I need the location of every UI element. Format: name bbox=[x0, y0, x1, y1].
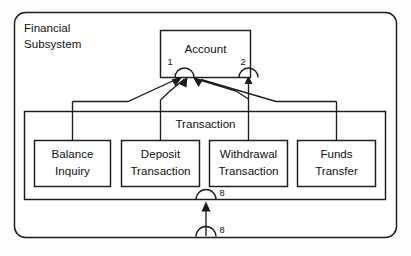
account-port-1-label: 1 bbox=[167, 57, 172, 67]
operation-deposit-transaction-line1: Deposit bbox=[141, 147, 181, 160]
operation-funds-transfer-line2: Transfer bbox=[315, 164, 358, 177]
transaction-container-label: Transaction bbox=[175, 117, 235, 130]
operation-funds-transfer-line1: Funds bbox=[320, 147, 352, 160]
operation-withdrawal-transaction-line1: Withdrawal bbox=[220, 147, 277, 160]
account-class-label: Account bbox=[185, 42, 228, 55]
subsystem-title-line2: Subsystem bbox=[24, 37, 81, 50]
operation-withdrawal-transaction-line2: Transaction bbox=[218, 164, 278, 177]
operation-balance-inquiry-line1: Balance bbox=[52, 147, 94, 160]
operation-balance-inquiry-line2: Inquiry bbox=[55, 164, 90, 177]
account-port-2-label: 2 bbox=[240, 57, 245, 67]
subsystem-port-label: 8 bbox=[219, 225, 224, 235]
operation-deposit-transaction-line2: Transaction bbox=[130, 164, 190, 177]
diagram-canvas: Financial Subsystem Account 1 2 bbox=[0, 0, 411, 256]
subsystem-title-line1: Financial bbox=[24, 21, 70, 34]
financial-subsystem-diagram: Financial Subsystem Account 1 2 bbox=[0, 0, 411, 256]
transaction-port-label: 8 bbox=[219, 188, 224, 198]
